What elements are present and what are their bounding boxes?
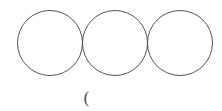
parenthesis-label: ( xyxy=(83,88,90,108)
circle-2 xyxy=(83,11,148,76)
circle-1 xyxy=(18,11,83,76)
circle-3 xyxy=(148,11,213,76)
circles-diagram xyxy=(0,0,222,111)
